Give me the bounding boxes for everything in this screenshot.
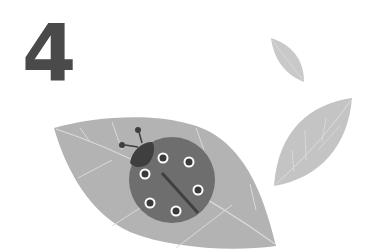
- right-leaf-icon: [274, 98, 352, 186]
- leaves-and-ladybug-art: [0, 0, 375, 249]
- illustration-canvas: 4: [0, 0, 375, 249]
- small-leaf-icon: [271, 38, 304, 82]
